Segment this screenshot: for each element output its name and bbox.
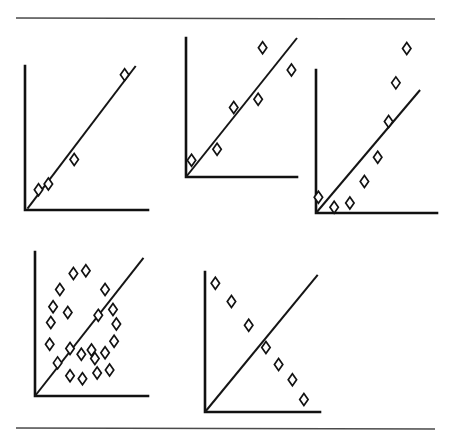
negative-correlation-point-2 — [227, 295, 235, 307]
moderate-positive-correlation-point-4 — [360, 176, 368, 188]
negative-correlation-point-6 — [288, 374, 296, 386]
figure-container — [0, 0, 453, 441]
negative-correlation-point-3 — [245, 319, 253, 331]
no-correlation-point-2 — [82, 265, 90, 277]
perfect-positive-correlation-point-4 — [120, 69, 128, 81]
strong-positive-correlation-trend-line — [186, 38, 297, 177]
no-correlation-point-12 — [66, 342, 74, 354]
bottom-rule — [16, 428, 435, 429]
scatter-plot-figure — [0, 0, 453, 441]
no-correlation-point-22 — [105, 364, 113, 376]
negative-correlation-point-7 — [300, 393, 308, 405]
negative-correlation-panel — [205, 272, 320, 412]
perfect-positive-correlation-panel — [25, 66, 148, 210]
no-correlation-point-13 — [77, 348, 85, 360]
moderate-positive-correlation-point-5 — [374, 151, 382, 163]
negative-correlation-trend-line — [205, 275, 318, 412]
strong-positive-correlation-point-6 — [287, 64, 295, 76]
strong-positive-correlation-point-1 — [187, 154, 195, 166]
negative-correlation-point-1 — [211, 277, 219, 289]
no-correlation-point-3 — [56, 283, 64, 295]
no-correlation-point-20 — [93, 367, 101, 379]
strong-positive-correlation-point-4 — [254, 93, 262, 105]
no-correlation-point-4 — [49, 301, 57, 313]
strong-positive-correlation-panel — [186, 38, 297, 177]
moderate-positive-correlation-point-6 — [384, 115, 392, 127]
moderate-positive-correlation-trend-line — [316, 90, 420, 213]
perfect-positive-correlation-point-2 — [44, 178, 52, 190]
horizontal-rules — [16, 18, 435, 429]
no-correlation-point-1 — [69, 268, 77, 280]
no-correlation-point-10 — [112, 318, 120, 330]
strong-positive-correlation-point-3 — [230, 102, 238, 114]
no-correlation-point-6 — [47, 317, 55, 329]
moderate-positive-correlation-panel — [314, 43, 437, 214]
no-correlation-point-11 — [45, 338, 53, 350]
perfect-positive-correlation-trend-line — [27, 66, 135, 209]
no-correlation-panel — [35, 252, 148, 396]
perfect-positive-correlation-point-3 — [70, 154, 78, 166]
strong-positive-correlation-point-2 — [213, 143, 221, 155]
no-correlation-point-17 — [53, 357, 61, 369]
moderate-positive-correlation-point-7 — [392, 77, 400, 89]
moderate-positive-correlation-point-2 — [330, 201, 338, 213]
negative-correlation-point-4 — [262, 342, 270, 354]
perfect-positive-correlation-point-1 — [34, 184, 42, 196]
no-correlation-point-15 — [101, 347, 109, 359]
moderate-positive-correlation-point-8 — [403, 43, 411, 55]
scatter-panels — [25, 38, 437, 412]
no-correlation-point-5 — [64, 306, 72, 318]
no-correlation-point-9 — [109, 304, 117, 316]
no-correlation-point-18 — [66, 370, 74, 382]
moderate-positive-correlation-point-3 — [346, 197, 354, 209]
no-correlation-point-16 — [110, 335, 118, 347]
no-correlation-point-19 — [78, 373, 86, 385]
strong-positive-correlation-point-5 — [258, 42, 266, 54]
top-rule — [16, 18, 435, 19]
negative-correlation-point-5 — [274, 358, 282, 370]
no-correlation-point-8 — [101, 283, 109, 295]
